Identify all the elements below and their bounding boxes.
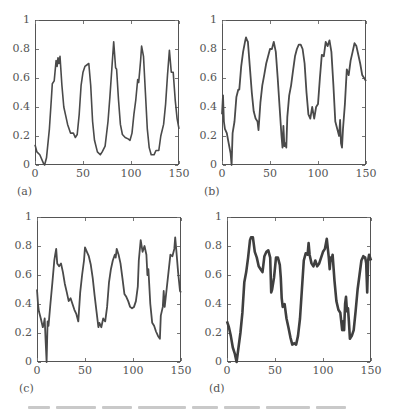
y-tick-label: 0.8	[8, 42, 30, 55]
y-tick-mark	[367, 362, 370, 363]
x-tick-label: 0	[212, 364, 242, 377]
y-tick-mark	[362, 165, 365, 166]
y-tick-label: 1	[10, 210, 32, 223]
y-tick-label: 0.6	[8, 71, 30, 84]
y-tick-label: 0.6	[195, 71, 217, 84]
series-line	[37, 237, 181, 362]
y-tick-label: 0.8	[10, 239, 32, 252]
y-tick-mark	[223, 165, 226, 166]
x-tick-label: 50	[260, 364, 290, 377]
y-tick-label: 0.8	[200, 239, 222, 252]
data-line-plot	[37, 217, 181, 362]
y-tick-label: 1	[200, 210, 222, 223]
x-tick-label: 100	[116, 167, 146, 180]
y-tick-label: 0.6	[200, 268, 222, 281]
x-tick-mark	[366, 161, 367, 164]
y-tick-label: 1	[195, 13, 217, 26]
y-tick-label: 1	[8, 13, 30, 26]
x-tick-label: 0	[22, 364, 52, 377]
y-tick-label: 0.6	[10, 268, 32, 281]
x-tick-mark	[181, 218, 182, 221]
panel-label: (d)	[209, 382, 225, 395]
x-tick-mark	[371, 358, 372, 361]
x-tick-mark	[181, 358, 182, 361]
y-tick-label: 0.4	[10, 297, 32, 310]
y-tick-mark	[38, 362, 41, 363]
y-tick-label: 0.2	[8, 129, 30, 142]
x-tick-mark	[179, 21, 180, 24]
x-tick-label: 150	[164, 167, 194, 180]
x-tick-mark	[366, 21, 367, 24]
series-line	[227, 237, 371, 362]
x-tick-label: 150	[166, 364, 196, 377]
y-tick-label: 0.4	[195, 100, 217, 113]
x-tick-label: 100	[118, 364, 148, 377]
x-tick-label: 100	[308, 364, 338, 377]
data-line-plot	[35, 20, 179, 165]
x-tick-label: 0	[207, 167, 237, 180]
x-tick-label: 150	[356, 364, 386, 377]
y-tick-mark	[177, 362, 180, 363]
y-tick-mark	[175, 165, 178, 166]
x-tick-label: 50	[70, 364, 100, 377]
series-line	[35, 42, 179, 165]
y-tick-label: 0.4	[8, 100, 30, 113]
series-line	[222, 37, 366, 165]
data-line-plot	[222, 20, 366, 165]
y-tick-label: 0.8	[195, 42, 217, 55]
x-tick-label: 50	[255, 167, 285, 180]
y-tick-label: 0.2	[10, 326, 32, 339]
x-tick-label: 0	[20, 167, 50, 180]
x-tick-mark	[371, 218, 372, 221]
x-tick-label: 100	[303, 167, 333, 180]
x-tick-label: 50	[68, 167, 98, 180]
y-tick-label: 0.4	[200, 297, 222, 310]
y-tick-label: 0.2	[195, 129, 217, 142]
panel-label: (c)	[19, 382, 34, 395]
y-tick-label: 0.2	[200, 326, 222, 339]
y-tick-mark	[36, 165, 39, 166]
x-tick-mark	[179, 161, 180, 164]
panel-label: (b)	[204, 185, 220, 198]
panel-label: (a)	[17, 185, 32, 198]
data-line-plot	[227, 217, 371, 362]
x-tick-label: 150	[351, 167, 381, 180]
figure-caption-cutoff	[28, 403, 368, 410]
y-tick-mark	[228, 362, 231, 363]
